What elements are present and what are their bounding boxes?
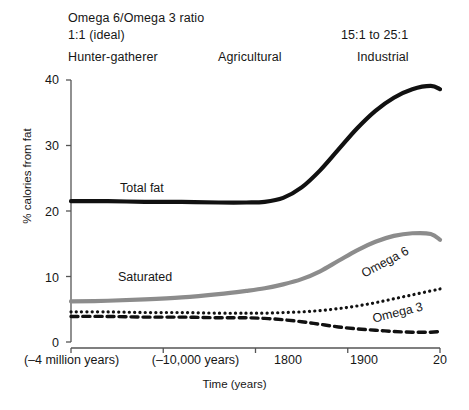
axis-lines [66,80,440,353]
plot-area [0,0,469,410]
series-line-omega-3 [71,316,440,332]
data-series [71,86,440,332]
chart-figure: Omega 6/Omega 3 ratio 1:1 (ideal) Hunter… [0,0,469,410]
series-line-total-fat [71,86,440,203]
series-line-saturated [71,233,440,301]
x-axis-ticks [71,348,440,353]
